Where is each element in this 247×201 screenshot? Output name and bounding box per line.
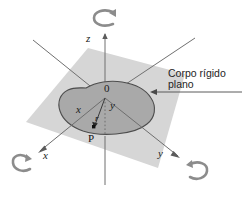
origin-label: 0 xyxy=(104,82,110,94)
y-axis-arrowhead xyxy=(171,151,181,158)
inner-y-label: y xyxy=(109,99,115,111)
inner-x-label: x xyxy=(75,103,81,115)
z-axis-arrowhead xyxy=(102,33,107,39)
y-axis-end-label: y xyxy=(157,147,163,159)
callout-line2: plano xyxy=(168,78,194,90)
figure-container: z 0 y x r P x y Corpo rígido plano xyxy=(0,0,247,201)
point-p-label: P xyxy=(88,132,94,144)
z-axis-label: z xyxy=(85,32,91,44)
x-axis-end-label: x xyxy=(42,149,48,161)
y-rotation-arrowhead xyxy=(186,160,193,168)
point-p-marker xyxy=(92,125,95,128)
position-vector-label: r xyxy=(95,113,99,123)
x-rotation-arrowhead xyxy=(25,154,32,162)
rigid-body-rotation-diagram: z 0 y x r P x y Corpo rígido plano xyxy=(0,0,247,201)
